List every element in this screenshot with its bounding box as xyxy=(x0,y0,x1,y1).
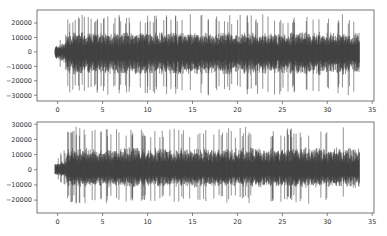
x-tick-label: 5 xyxy=(101,106,105,114)
x-tick-label: 25 xyxy=(278,106,286,114)
x-tick-label: 10 xyxy=(143,106,151,114)
x-tick-label: 0 xyxy=(56,106,60,114)
waveform-line xyxy=(55,14,359,95)
x-tick-label: 10 xyxy=(143,218,151,226)
x-tick-label: 20 xyxy=(233,106,241,114)
y-tick-label: 0 xyxy=(28,166,32,174)
subplot-2: 05101520253035−20000−1000001000020000300… xyxy=(6,121,376,226)
subplot-1: 05101520253035−30000−20000−1000001000020… xyxy=(6,10,376,114)
x-tick-label: 25 xyxy=(278,218,286,226)
x-tick-label: 0 xyxy=(56,218,60,226)
waveform-figure: 05101520253035−30000−20000−1000001000020… xyxy=(0,0,387,236)
y-tick-label: 30000 xyxy=(11,121,32,129)
x-tick-label: 5 xyxy=(101,218,105,226)
y-tick-label: 20000 xyxy=(11,19,32,27)
x-tick-label: 30 xyxy=(323,218,331,226)
x-tick-label: 15 xyxy=(188,218,196,226)
x-tick-label: 35 xyxy=(368,106,376,114)
x-tick-label: 20 xyxy=(233,218,241,226)
y-tick-label: 10000 xyxy=(11,151,32,159)
y-tick-label: 0 xyxy=(28,48,32,56)
x-tick-label: 30 xyxy=(323,106,331,114)
y-tick-label: −10000 xyxy=(6,63,32,71)
x-tick-label: 35 xyxy=(368,218,376,226)
y-tick-label: 10000 xyxy=(11,34,32,42)
y-tick-label: −10000 xyxy=(6,181,32,189)
y-tick-label: 20000 xyxy=(11,136,32,144)
waveform-line xyxy=(55,127,359,204)
x-tick-label: 15 xyxy=(188,106,196,114)
y-tick-label: −20000 xyxy=(6,77,32,85)
figure: 05101520253035−30000−20000−1000001000020… xyxy=(0,0,387,236)
y-tick-label: −20000 xyxy=(6,196,32,204)
y-tick-label: −30000 xyxy=(6,92,32,100)
